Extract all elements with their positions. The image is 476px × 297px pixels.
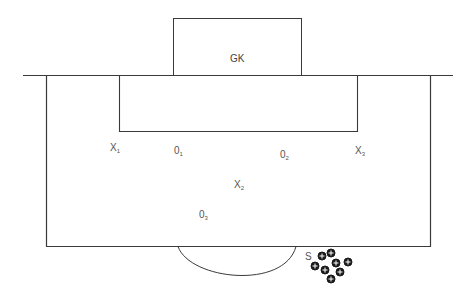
penalty-arc bbox=[178, 247, 296, 276]
ball-icon bbox=[318, 252, 326, 260]
penalty-area bbox=[47, 76, 431, 247]
player-x2: X2 bbox=[234, 180, 244, 191]
player-o3: 03 bbox=[199, 210, 208, 221]
player-o1: 01 bbox=[174, 146, 183, 157]
ball-cluster bbox=[311, 249, 352, 283]
server-label: S bbox=[305, 252, 312, 262]
goal-area bbox=[120, 76, 358, 132]
player-x1: X1 bbox=[110, 143, 120, 154]
goal bbox=[174, 19, 302, 76]
ball-icon bbox=[332, 259, 340, 267]
ball-icon bbox=[311, 262, 319, 270]
goalkeeper-label: GK bbox=[230, 54, 244, 64]
ball-icon bbox=[336, 268, 344, 276]
ball-icon bbox=[327, 275, 335, 283]
player-x3: X3 bbox=[355, 146, 365, 157]
ball-icon bbox=[321, 266, 329, 274]
pitch-diagram bbox=[0, 0, 476, 297]
ball-icon bbox=[327, 249, 335, 257]
ball-icon bbox=[344, 258, 352, 266]
player-o2: 02 bbox=[280, 150, 289, 161]
